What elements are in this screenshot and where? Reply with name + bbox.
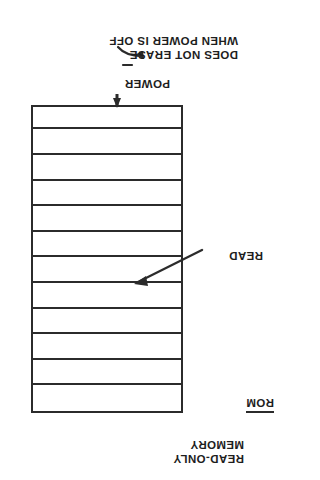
rom-row-divider (33, 204, 181, 206)
rom-row-divider (33, 281, 181, 283)
power-label: POWER (125, 76, 170, 90)
rom-row-divider (33, 383, 181, 385)
rom-title-line-1: READ-ONLY (173, 453, 244, 465)
rom-block (31, 105, 183, 413)
rom-row-divider (33, 307, 181, 309)
rom-row-divider (33, 332, 181, 334)
figure-canvas: READ-ONLY MEMORY ROM READ POWER DOES NOT… (0, 0, 320, 480)
rom-row-divider (33, 358, 181, 360)
erase-note-line-2: WHEN POWER IS OFF (109, 35, 238, 47)
rom-row-divider (33, 230, 181, 232)
erase-note: DOES NOT ERASE WHEN POWER IS OFF (109, 33, 238, 62)
rom-figure: READ-ONLY MEMORY ROM READ POWER DOES NOT… (0, 0, 320, 480)
rom-row-divider (33, 127, 181, 129)
rom-abbreviation: ROM (246, 395, 274, 413)
read-label: READ (229, 248, 263, 262)
rom-row-divider (33, 153, 181, 155)
erase-note-line-1: DOES NOT ERASE (130, 49, 238, 61)
rom-row-divider (33, 179, 181, 181)
rom-title-line-2: MEMORY (190, 439, 244, 451)
rom-row-divider (33, 255, 181, 257)
rom-title: READ-ONLY MEMORY (173, 438, 244, 465)
